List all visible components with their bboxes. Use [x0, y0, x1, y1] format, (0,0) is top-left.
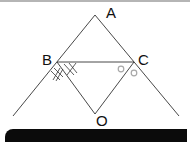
- angle-mark-c-upper: [118, 66, 124, 72]
- triangle-diagram: [0, 0, 190, 142]
- label-point-a: A: [106, 5, 116, 20]
- bottom-bar: [5, 129, 187, 142]
- line-a-left: [13, 15, 95, 116]
- label-point-c: C: [138, 52, 149, 67]
- line-a-right: [95, 15, 179, 116]
- angle-mark-b-lower: [51, 68, 63, 81]
- label-point-o: O: [96, 113, 108, 128]
- label-point-b: B: [42, 52, 52, 67]
- angle-mark-c-lower: [131, 70, 137, 76]
- segment-co: [95, 62, 134, 114]
- angle-mark-b-upper: [64, 63, 77, 75]
